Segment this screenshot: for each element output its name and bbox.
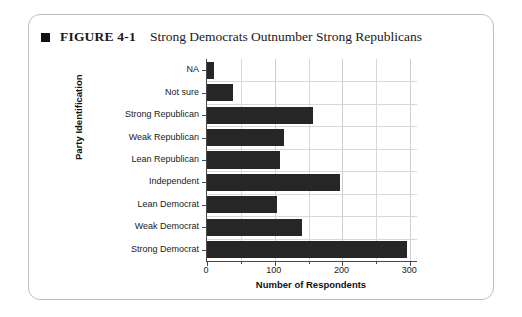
gridline-horizontal <box>207 149 417 150</box>
gridline-horizontal <box>207 171 417 172</box>
bar <box>207 219 302 236</box>
y-tick-mark <box>202 227 207 228</box>
y-axis-tick-label: Lean Democrat <box>137 200 199 209</box>
y-axis-tick-label: Weak Democrat <box>135 222 199 231</box>
y-tick-mark <box>202 138 207 139</box>
bar-row <box>207 174 417 191</box>
y-tick-mark <box>202 160 207 161</box>
y-axis-tick-label: Strong Republican <box>125 110 199 119</box>
y-axis-tick-label: Independent <box>149 177 199 186</box>
x-tick-mark-minor <box>241 261 242 264</box>
y-axis-tick-labels: NANot sureStrong RepublicanWeak Republic… <box>89 59 199 261</box>
x-axis-tick-label: 200 <box>334 265 349 275</box>
bar-row <box>207 84 417 101</box>
bar <box>207 107 313 124</box>
y-axis-tick-label: Lean Republican <box>131 155 199 164</box>
bar <box>207 62 214 79</box>
bar-row <box>207 62 417 79</box>
bar-row <box>207 107 417 124</box>
bar <box>207 196 277 213</box>
y-tick-mark <box>202 182 207 183</box>
x-tick-mark-minor <box>309 261 310 264</box>
bar-chart: Party Identification NANot sureStrong Re… <box>29 15 495 301</box>
x-axis-tick-label: 100 <box>266 265 281 275</box>
gridline-horizontal <box>207 216 417 217</box>
y-axis-title: Party Identification <box>73 74 84 160</box>
x-axis-tick-label: 300 <box>402 265 417 275</box>
gridline-horizontal <box>207 239 417 240</box>
y-tick-mark <box>202 115 207 116</box>
plot-area <box>206 59 417 262</box>
bar <box>207 174 340 191</box>
y-tick-mark <box>202 205 207 206</box>
x-tick-mark-minor <box>376 261 377 264</box>
y-tick-mark <box>202 93 207 94</box>
bar <box>207 129 284 146</box>
y-tick-mark <box>202 250 207 251</box>
x-axis-tick-label: 0 <box>203 265 208 275</box>
y-tick-mark <box>202 70 207 71</box>
bar-row <box>207 196 417 213</box>
gridline-horizontal <box>207 81 417 82</box>
bar <box>207 84 233 101</box>
y-axis-tick-label: Weak Republican <box>129 133 199 142</box>
bar <box>207 241 407 258</box>
bar-row <box>207 151 417 168</box>
gridline-horizontal <box>207 104 417 105</box>
bar-row <box>207 241 417 258</box>
figure-card: FIGURE 4-1 Strong Democrats Outnumber St… <box>28 14 494 300</box>
x-axis-title: Number of Respondents <box>206 279 416 290</box>
gridline-horizontal <box>207 126 417 127</box>
y-axis-tick-label: Strong Democrat <box>131 245 199 254</box>
y-axis-tick-label: Not sure <box>165 88 199 97</box>
bar <box>207 151 280 168</box>
bar-row <box>207 129 417 146</box>
bar-row <box>207 219 417 236</box>
gridline-horizontal <box>207 194 417 195</box>
y-axis-tick-label: NA <box>186 65 199 74</box>
